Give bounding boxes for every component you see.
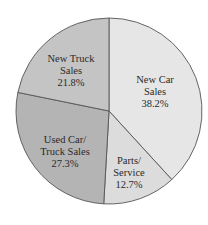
slice-percent: 12.7% <box>115 179 142 190</box>
slice-name: New Car <box>136 74 174 85</box>
slice-name: New Truck <box>48 53 96 64</box>
slice-percent: 38.2% <box>141 98 168 109</box>
pie-slices <box>16 18 202 204</box>
slice-name: Truck Sales <box>40 146 90 157</box>
pie-chart: New CarSales38.2%Parts/Service12.7%Used … <box>0 0 208 225</box>
slice-percent: 27.3% <box>51 158 78 169</box>
slice-name: Parts/ <box>117 155 141 166</box>
slice-name: Sales <box>144 86 166 97</box>
slice-name: Sales <box>60 65 82 76</box>
slice-name: Service <box>113 167 145 178</box>
slice-label: Parts/Service12.7% <box>113 155 145 190</box>
slice-percent: 21.8% <box>57 77 84 88</box>
slice-name: Used Car/ <box>44 134 86 145</box>
